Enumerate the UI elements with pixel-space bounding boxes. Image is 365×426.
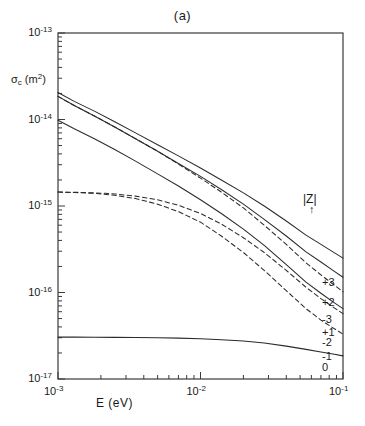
curve-0 bbox=[58, 337, 343, 356]
curve-+3 bbox=[58, 93, 343, 259]
curve--1 bbox=[58, 192, 343, 334]
curve-label-minus3: -3 bbox=[322, 313, 332, 325]
y-tick-label-1: 10-14 bbox=[12, 112, 52, 125]
curve--2 bbox=[58, 192, 343, 314]
curve-label-plus3: +3 bbox=[322, 276, 335, 288]
curve-label-minus2: -2 bbox=[322, 336, 332, 348]
curve-label-0: 0 bbox=[322, 361, 328, 373]
y-tick-label-3: 10-16 bbox=[12, 285, 52, 298]
curve-+1 bbox=[58, 120, 343, 308]
plot-canvas bbox=[0, 0, 365, 426]
x-tick-label-2: 10-1 bbox=[329, 384, 348, 397]
y-tick-label-4: 10-17 bbox=[12, 371, 52, 384]
x-tick-label-0: 10-3 bbox=[44, 384, 63, 397]
curve-+2 bbox=[58, 96, 343, 277]
figure-panel: (a) σc (m2) E (eV) |Z| ↑ 10-1310-1410-15… bbox=[0, 0, 365, 426]
curve-label-plus2: +2 bbox=[322, 296, 335, 308]
y-tick-label-0: 10-13 bbox=[12, 25, 52, 38]
y-tick-label-2: 10-15 bbox=[12, 198, 52, 211]
x-tick-label-1: 10-2 bbox=[187, 384, 206, 397]
